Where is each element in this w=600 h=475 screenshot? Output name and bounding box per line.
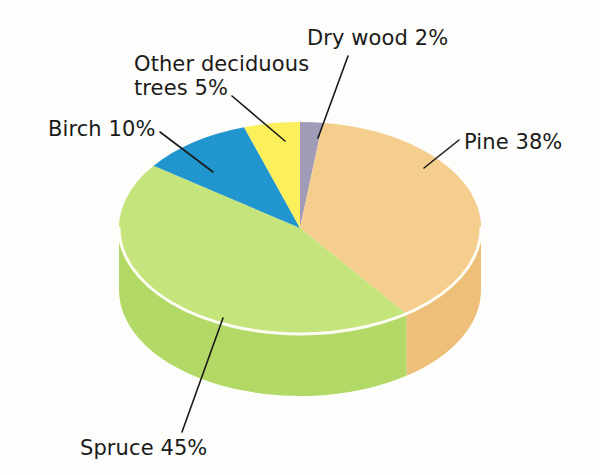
slice-label-birch: Birch 10% xyxy=(48,117,156,141)
slice-label-spruce: Spruce 45% xyxy=(80,436,207,460)
slice-label-pine: Pine 38% xyxy=(464,130,562,154)
slice-label-other-deciduous-line2: trees 5% xyxy=(134,76,228,100)
slice-label-other-deciduous: Other deciduoustrees 5% xyxy=(134,52,309,100)
pie-3d-body xyxy=(119,122,481,396)
slice-label-dry-wood: Dry wood 2% xyxy=(307,26,448,50)
slice-label-other-deciduous-line1: Other deciduous xyxy=(134,52,309,76)
pie-chart-figure: Dry wood 2% Other deciduoustrees 5% Birc… xyxy=(0,0,600,475)
